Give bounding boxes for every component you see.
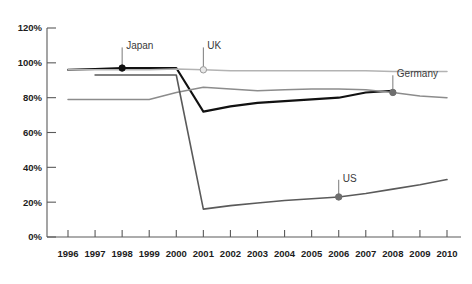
series-label-us: US (343, 173, 357, 184)
series-label-japan: Japan (126, 40, 153, 51)
x-tick-label: 2008 (382, 248, 403, 259)
y-tick-label: 60% (23, 127, 43, 138)
y-tick-label: 0% (28, 231, 42, 242)
y-tick-label: 20% (23, 197, 43, 208)
series-marker-japan (119, 65, 125, 71)
x-tick-label: 2001 (193, 248, 215, 259)
x-tick-label: 1999 (139, 248, 160, 259)
x-axis: 1996199719981999200020012002200320042005… (47, 230, 461, 259)
x-tick-label: 2004 (274, 248, 296, 259)
x-tick-label: 2002 (220, 248, 241, 259)
data-series-group (68, 68, 447, 209)
x-tick-label: 2010 (436, 248, 457, 259)
y-tick-label: 100% (18, 57, 43, 68)
x-tick-label: 2005 (301, 248, 323, 259)
series-label-uk: UK (207, 40, 221, 51)
x-tick-label: 2007 (355, 248, 376, 259)
y-tick-label: 80% (23, 92, 43, 103)
y-tick-label: 40% (23, 162, 43, 173)
x-tick-label: 2009 (409, 248, 430, 259)
series-marker-uk (200, 67, 206, 73)
x-tick-label: 1998 (112, 248, 133, 259)
x-tick-label: 1997 (85, 248, 106, 259)
series-label-germany: Germany (397, 68, 438, 79)
line-chart: 0%20%40%60%80%100%120% 19961997199819992… (0, 0, 472, 284)
x-tick-label: 2003 (247, 248, 268, 259)
annotation-group: JapanUKGermanyUS (119, 40, 438, 200)
y-axis: 0%20%40%60%80%100%120% (18, 22, 56, 242)
x-tick-label: 1996 (57, 248, 78, 259)
x-tick-label: 2000 (166, 248, 187, 259)
chart-container: 0%20%40%60%80%100%120% 19961997199819992… (0, 0, 472, 284)
y-tick-label: 120% (18, 22, 43, 33)
series-marker-germany (390, 89, 396, 95)
series-marker-us (336, 194, 342, 200)
x-tick-label: 2006 (328, 248, 349, 259)
